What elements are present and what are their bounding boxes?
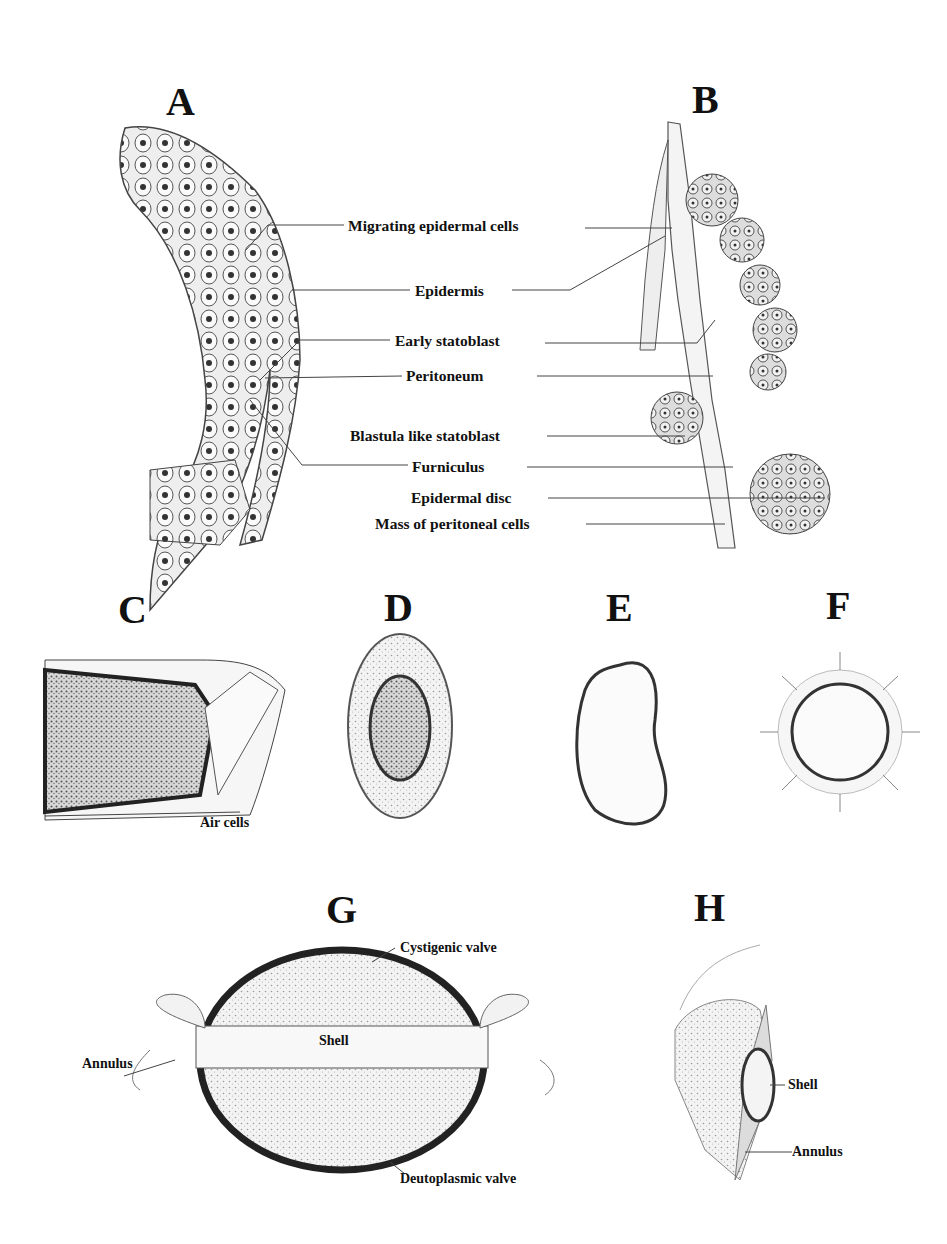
label-furniculus: Furniculus (412, 459, 484, 475)
label-annulus-h: Annulus (792, 1145, 843, 1159)
panel-letter-e: E (606, 588, 633, 628)
panel-letter-c: C (118, 590, 147, 630)
label-epidermal-disc: Epidermal disc (411, 490, 511, 506)
ab-leader-lines (246, 225, 825, 524)
label-shell-g: Shell (319, 1034, 349, 1048)
panel-letter-b: B (692, 80, 719, 120)
panel-d-drawing (348, 634, 452, 818)
panel-a-drawing (120, 127, 300, 610)
panel-c-drawing (45, 660, 285, 820)
panel-b-drawing (640, 122, 830, 548)
panel-h-drawing (675, 945, 792, 1180)
panel-letter-g: G (326, 890, 357, 930)
panel-letter-d: D (384, 588, 413, 628)
label-deutoplasmic-valve: Deutoplasmic valve (400, 1172, 516, 1186)
label-epidermis: Epidermis (415, 283, 484, 299)
panel-f-drawing (760, 652, 920, 812)
label-cystigenic-valve: Cystigenic valve (400, 941, 497, 955)
panel-g-drawing (124, 948, 554, 1174)
label-early-statoblast: Early statoblast (395, 333, 500, 349)
label-blastula-like-statoblast: Blastula like statoblast (350, 428, 500, 444)
label-annulus-g: Annulus (82, 1057, 133, 1071)
label-shell-h: Shell (788, 1078, 818, 1092)
label-migrating-epidermal-cells: Migrating epidermal cells (348, 218, 518, 234)
panel-letter-h: H (694, 888, 725, 928)
panel-e-drawing (577, 663, 666, 824)
panel-letter-f: F (826, 586, 850, 626)
label-mass-of-peritoneal-cells: Mass of peritoneal cells (375, 516, 530, 532)
panel-letter-a: A (166, 82, 195, 122)
label-peritoneum: Peritoneum (406, 368, 483, 384)
label-air-cells: Air cells (200, 816, 249, 830)
